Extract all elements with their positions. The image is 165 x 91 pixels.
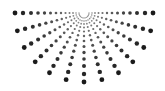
dot — [66, 41, 69, 44]
dot — [82, 57, 86, 61]
dot — [116, 12, 119, 15]
dot — [88, 14, 89, 15]
dot — [56, 19, 59, 22]
dot — [128, 38, 132, 42]
dot — [75, 14, 77, 16]
dot — [69, 36, 72, 39]
dot — [93, 22, 95, 24]
dot — [73, 22, 75, 24]
sunburst-dot-graphic — [0, 0, 165, 91]
dot — [83, 40, 86, 43]
dot — [91, 14, 93, 16]
dot — [119, 48, 123, 52]
dot — [69, 12, 71, 14]
dot — [109, 57, 113, 61]
dot — [141, 27, 145, 31]
dot — [88, 12, 89, 13]
dot — [122, 34, 126, 38]
dot — [64, 12, 66, 14]
dot — [105, 51, 109, 55]
dot — [115, 44, 119, 48]
dot — [87, 26, 89, 28]
ray — [13, 11, 80, 16]
dot — [69, 16, 71, 18]
dot — [151, 11, 156, 16]
dot — [125, 54, 129, 58]
ray — [87, 16, 135, 64]
dot — [128, 11, 132, 15]
dot — [43, 11, 46, 14]
dot — [96, 62, 100, 66]
dot — [78, 12, 79, 13]
dot — [86, 23, 88, 25]
dot — [101, 17, 103, 19]
dot — [59, 51, 63, 55]
dot — [106, 12, 108, 14]
dot — [47, 70, 52, 75]
dot — [78, 18, 80, 20]
dot — [78, 22, 80, 24]
dot — [130, 59, 135, 64]
dot — [91, 12, 93, 14]
dot — [97, 36, 100, 39]
dot — [112, 28, 115, 31]
dot — [29, 41, 33, 45]
dot — [106, 35, 109, 38]
dot — [89, 22, 91, 24]
dot — [83, 45, 86, 48]
dot — [49, 12, 52, 15]
dot — [91, 44, 94, 47]
dot — [59, 35, 62, 38]
dot — [98, 12, 100, 14]
dot — [42, 34, 46, 38]
dot — [127, 23, 131, 27]
dot — [94, 32, 96, 34]
dot — [82, 72, 86, 76]
dot — [94, 15, 96, 17]
dot — [122, 11, 125, 14]
dot — [116, 70, 121, 75]
dot — [23, 27, 27, 31]
dot — [86, 17, 87, 18]
dot — [70, 19, 72, 21]
dot — [105, 18, 107, 20]
dot — [91, 20, 93, 22]
dot — [110, 39, 113, 42]
dot — [88, 30, 90, 32]
dot — [121, 22, 124, 25]
dot — [74, 44, 77, 47]
dot — [83, 17, 84, 18]
dot — [33, 59, 38, 64]
dot — [76, 16, 78, 18]
dot — [78, 14, 79, 15]
dot — [68, 62, 72, 66]
dot — [83, 20, 85, 22]
dot — [85, 20, 87, 22]
dot — [94, 56, 98, 60]
dot — [98, 70, 102, 74]
dot — [36, 11, 40, 15]
dot — [135, 11, 139, 15]
dot — [31, 25, 35, 29]
dot — [55, 12, 58, 15]
dot — [97, 16, 99, 18]
dot — [94, 12, 96, 14]
dot — [92, 28, 94, 30]
ray — [82, 17, 87, 84]
dot — [99, 77, 104, 82]
dot — [143, 11, 147, 15]
dot — [72, 50, 75, 53]
ray — [88, 11, 155, 16]
dot — [96, 19, 98, 21]
ray — [15, 14, 80, 34]
dot — [79, 19, 81, 21]
dot — [75, 20, 77, 22]
dot — [63, 23, 65, 25]
dot — [96, 25, 98, 27]
dot — [75, 39, 78, 42]
dot — [78, 30, 80, 32]
dot — [50, 20, 53, 23]
dot — [90, 39, 93, 42]
dot — [112, 64, 116, 68]
dot — [64, 77, 69, 82]
